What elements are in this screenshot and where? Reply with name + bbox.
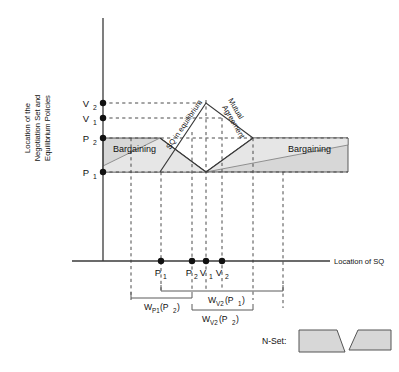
x-tick-p1-base: P [155, 267, 161, 278]
negotiation-set-diagram: V 2 V 1 P 2 P 1 P 1 P 2 V 1 V 2 Bargaini… [0, 0, 399, 372]
x-tick-v2-base: V [216, 267, 223, 278]
bracket-wv2p1-label: W V2 (P 1 ) [208, 295, 245, 307]
bracket-wp1p2-line [131, 292, 192, 298]
y-axis-title-line2: Negotiation Set and [33, 95, 42, 162]
region-label-bargaining-left: Bargaining [113, 144, 156, 154]
x-tick-p2-base: P [186, 267, 192, 278]
y-tick-label-p2: P 2 [83, 133, 97, 146]
bracket-wv2p1-sub: V2 [216, 300, 224, 307]
y-tick-p1-sub: 1 [93, 173, 97, 180]
bracket-wp1p2-label: W P1 (P 2 ) [144, 302, 180, 314]
bracket-wv2p2-arg: (P [219, 314, 228, 324]
y-tick-v2-base: V [83, 98, 90, 109]
x-tick-label-p2: P 2 [186, 267, 198, 280]
x-tick-v1-sub: 1 [209, 273, 213, 280]
region-label-bargaining-right: Bargaining [288, 144, 331, 154]
y-tick-label-v1: V 1 [83, 113, 97, 126]
y-axis-title: Location of the Negotiation Set and Equi… [23, 95, 52, 162]
legend-swatch-right [349, 330, 391, 350]
y-tick-v2-sub: 2 [93, 104, 97, 111]
y-tick-v1-base: V [83, 113, 90, 124]
y-axis-title-line3: Equilibrium Policies [43, 95, 52, 161]
x-tick-dot-p1 [158, 258, 164, 264]
y-tick-p2-sub: 2 [93, 139, 97, 146]
y-tick-v1-sub: 1 [93, 119, 97, 126]
x-tick-v1-base: V [200, 267, 207, 278]
legend: N-Set: [262, 330, 391, 352]
x-tick-dot-v1 [203, 258, 209, 264]
y-tick-label-v2: V 2 [83, 98, 97, 111]
legend-label: N-Set: [262, 336, 286, 346]
y-tick-p2-base: P [83, 133, 89, 144]
y-tick-p1-base: P [83, 167, 89, 178]
y-tick-dot-v1 [100, 115, 106, 121]
x-axis-title: Location of SQ [334, 257, 384, 266]
y-tick-dot-p2 [100, 135, 106, 141]
bracket-wv2p2: W V2 (P 2 ) [192, 304, 253, 326]
slope-label-sq-equilibrium: SQ in equilibrium [164, 98, 204, 151]
bracket-wv2p1-close: ) [242, 295, 245, 305]
bracket-wv2p2-sub: V2 [210, 319, 218, 326]
y-tick-dot-p1 [100, 169, 106, 175]
y-tick-dot-v2 [100, 100, 106, 106]
x-tick-p1-sub: 1 [163, 273, 167, 280]
bracket-wp1p2-sub: P1 [152, 307, 160, 314]
y-axis-title-line1: Location of the [23, 103, 32, 153]
bracket-wp1p2: W P1 (P 2 ) [131, 292, 192, 314]
x-tick-dot-v2 [219, 258, 225, 264]
bracket-wv2p2-close: ) [236, 314, 239, 324]
x-tick-label-p1: P 1 [155, 267, 167, 280]
bracket-wv2p1-arg: (P [225, 295, 234, 305]
bracket-wv2p2-label: W V2 (P 2 ) [202, 314, 239, 326]
x-tick-dot-p2 [189, 258, 195, 264]
figure-root: V 2 V 1 P 2 P 1 P 1 P 2 V 1 V 2 Bargaini… [0, 0, 399, 372]
x-tick-p2-sub: 2 [194, 273, 198, 280]
bracket-wp1p2-arg: (P [160, 302, 169, 312]
y-tick-label-p1: P 1 [83, 167, 97, 180]
x-tick-v2-sub: 2 [225, 273, 229, 280]
legend-swatch-left [299, 330, 345, 352]
bracket-wp1p2-close: ) [177, 302, 180, 312]
